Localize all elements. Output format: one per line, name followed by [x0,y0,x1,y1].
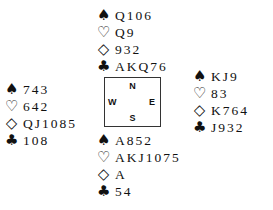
north-diamonds-cards: 932 [115,41,141,58]
spade-icon: ♠ [97,132,110,149]
west-hand: ♠ 743 ♡ 642 ◇ QJ1085 ♣ 108 [5,81,77,149]
spade-icon: ♠ [97,7,110,24]
club-icon: ♣ [5,132,18,149]
east-spades-cards: KJ9 [211,68,239,85]
west-diamonds-row: ◇ QJ1085 [5,115,77,132]
diamond-icon: ◇ [193,102,206,119]
south-hand: ♠ A852 ♡ AKJ1075 ◇ A ♣ 54 [97,132,181,200]
diamond-icon: ◇ [97,166,110,183]
north-clubs-row: ♣ AKQ76 [97,58,168,75]
compass-east-label: E [149,97,155,107]
compass-box: N W E S [104,77,161,127]
east-clubs-row: ♣ J932 [193,119,249,136]
west-clubs-row: ♣ 108 [5,132,77,149]
east-diamonds-cards: K764 [211,102,249,119]
east-diamonds-row: ◇ K764 [193,102,249,119]
east-hearts-row: ♡ 83 [193,85,249,102]
west-hearts-row: ♡ 642 [5,98,77,115]
compass-north-label: N [129,81,136,91]
south-spades-cards: A852 [115,132,153,149]
south-clubs-row: ♣ 54 [97,183,181,200]
south-diamonds-cards: A [115,166,127,183]
north-spades-cards: Q106 [115,7,153,24]
east-hand: ♠ KJ9 ♡ 83 ◇ K764 ♣ J932 [193,68,249,136]
club-icon: ♣ [97,183,110,200]
compass-south-label: S [129,113,135,123]
south-diamonds-row: ◇ A [97,166,181,183]
south-spades-row: ♠ A852 [97,132,181,149]
north-hearts-row: ♡ Q9 [97,24,168,41]
north-hand: ♠ Q106 ♡ Q9 ◇ 932 ♣ AKQ76 [97,7,168,75]
south-hearts-cards: AKJ1075 [115,149,181,166]
north-spades-row: ♠ Q106 [97,7,168,24]
east-spades-row: ♠ KJ9 [193,68,249,85]
west-spades-row: ♠ 743 [5,81,77,98]
heart-icon: ♡ [97,149,110,166]
compass-west-label: W [108,97,117,107]
diamond-icon: ◇ [97,41,110,58]
south-hearts-row: ♡ AKJ1075 [97,149,181,166]
west-spades-cards: 743 [23,81,49,98]
east-clubs-cards: J932 [211,119,245,136]
heart-icon: ♡ [5,98,18,115]
heart-icon: ♡ [97,24,110,41]
west-hearts-cards: 642 [23,98,49,115]
spade-icon: ♠ [193,68,206,85]
diamond-icon: ◇ [5,115,18,132]
south-clubs-cards: 54 [115,183,133,200]
spade-icon: ♠ [5,81,18,98]
north-hearts-cards: Q9 [115,24,136,41]
north-diamonds-row: ◇ 932 [97,41,168,58]
club-icon: ♣ [97,58,110,75]
east-hearts-cards: 83 [211,85,229,102]
north-clubs-cards: AKQ76 [115,58,168,75]
heart-icon: ♡ [193,85,206,102]
west-clubs-cards: 108 [23,132,49,149]
club-icon: ♣ [193,119,206,136]
west-diamonds-cards: QJ1085 [23,115,77,132]
